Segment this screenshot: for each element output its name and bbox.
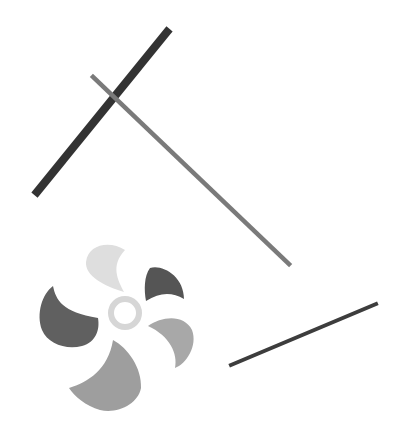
gray-diagonal-line xyxy=(93,77,289,264)
thick-dark-line xyxy=(37,32,167,192)
thin-dark-line xyxy=(231,304,376,365)
drawing-canvas xyxy=(0,0,403,441)
fan-hub-ring-icon xyxy=(111,299,139,327)
blade-top-right-icon xyxy=(145,267,184,301)
lines-group xyxy=(37,32,376,365)
pinwheel-fan-icon xyxy=(40,245,194,411)
blade-right-icon xyxy=(148,318,194,368)
blade-top-icon xyxy=(86,245,125,292)
blade-bottom-icon xyxy=(69,340,141,411)
blade-left-icon xyxy=(40,286,99,347)
